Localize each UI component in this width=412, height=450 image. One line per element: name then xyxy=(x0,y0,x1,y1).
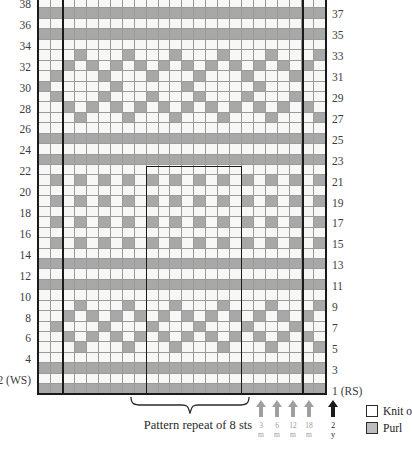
knit-cell xyxy=(50,18,62,28)
purl-cell xyxy=(122,384,134,394)
knit-cell xyxy=(242,102,254,112)
knit-cell xyxy=(170,18,182,28)
stitch-grid-body xyxy=(39,0,326,394)
knit-cell xyxy=(134,321,146,331)
up-arrow-icon xyxy=(286,400,300,417)
purl-cell xyxy=(301,60,313,70)
knit-cell xyxy=(301,81,313,91)
knit-cell xyxy=(194,227,206,237)
knit-cell xyxy=(266,352,278,362)
knit-cell xyxy=(122,165,134,175)
knit-cell xyxy=(146,342,158,352)
knit-cell xyxy=(86,238,98,248)
knit-cell xyxy=(170,81,182,91)
purl-cell xyxy=(242,154,254,164)
knit-cell xyxy=(134,206,146,216)
stitch-row xyxy=(39,269,326,279)
knit-cell xyxy=(242,342,254,352)
purl-cell xyxy=(170,238,182,248)
knit-cell xyxy=(266,227,278,237)
pattern-repeat-brace xyxy=(130,396,250,414)
purl-cell xyxy=(230,8,242,18)
purl-cell xyxy=(206,258,218,268)
knit-cell xyxy=(206,373,218,383)
knit-cell xyxy=(218,71,230,81)
knit-cell xyxy=(230,175,242,185)
stitch-row xyxy=(39,321,326,331)
knit-cell xyxy=(134,112,146,122)
purl-cell xyxy=(170,29,182,39)
knit-cell xyxy=(206,227,218,237)
purl-cell xyxy=(62,258,74,268)
knit-cell xyxy=(170,248,182,258)
stitch-row xyxy=(39,71,326,81)
purl-cell xyxy=(62,384,74,394)
knit-cell xyxy=(313,18,325,28)
purl-cell xyxy=(218,217,230,227)
knit-cell xyxy=(62,300,74,310)
stitch-grid xyxy=(38,0,326,395)
knit-cell xyxy=(254,18,266,28)
knit-cell xyxy=(301,50,313,60)
knit-cell xyxy=(39,50,51,60)
knit-cell xyxy=(182,0,194,8)
purl-cell xyxy=(86,154,98,164)
purl-cell xyxy=(182,258,194,268)
purl-cell xyxy=(74,154,86,164)
purl-cell xyxy=(74,196,86,206)
knit-cell xyxy=(206,248,218,258)
knit-cell xyxy=(301,248,313,258)
knit-cell xyxy=(86,217,98,227)
purl-cell xyxy=(194,363,206,373)
knit-cell xyxy=(206,18,218,28)
row-number-left: 36 xyxy=(20,20,32,30)
knit-cell xyxy=(278,290,290,300)
knit-cell xyxy=(206,165,218,175)
knit-cell xyxy=(110,238,122,248)
knit-cell xyxy=(86,373,98,383)
knit-cell xyxy=(62,123,74,133)
knit-cell xyxy=(194,332,206,342)
knit-cell xyxy=(206,217,218,227)
knit-cell xyxy=(170,206,182,216)
purl-cell xyxy=(170,8,182,18)
knit-cell xyxy=(266,18,278,28)
knit-cell xyxy=(182,342,194,352)
knit-cell xyxy=(278,91,290,101)
knit-cell xyxy=(206,39,218,49)
knit-cell xyxy=(50,206,62,216)
purl-cell xyxy=(194,91,206,101)
knit-cell xyxy=(86,91,98,101)
purl-cell xyxy=(182,102,194,112)
knit-cell xyxy=(86,290,98,300)
knit-cell xyxy=(278,175,290,185)
row-number-left: 20 xyxy=(20,187,32,197)
knit-cell xyxy=(313,248,325,258)
knit-cell xyxy=(194,81,206,91)
knit-cell xyxy=(290,269,302,279)
purl-cell xyxy=(62,29,74,39)
purl-cell xyxy=(170,196,182,206)
stitch-row xyxy=(39,352,326,362)
row-number-right: 1 (RS) xyxy=(332,386,362,396)
purl-cell xyxy=(242,29,254,39)
knit-cell xyxy=(170,144,182,154)
stitch-row xyxy=(39,8,326,18)
row-number-right: 25 xyxy=(332,135,344,145)
purl-cell xyxy=(146,238,158,248)
knit-cell xyxy=(98,227,110,237)
purl-cell xyxy=(301,363,313,373)
purl-cell xyxy=(170,175,182,185)
knit-cell xyxy=(313,71,325,81)
knit-cell xyxy=(98,332,110,342)
purl-cell xyxy=(110,332,122,342)
knit-cell xyxy=(39,175,51,185)
knit-cell xyxy=(290,102,302,112)
knit-cell xyxy=(254,238,266,248)
purl-cell xyxy=(74,175,86,185)
purl-cell xyxy=(194,29,206,39)
purl-cell xyxy=(313,342,325,352)
knit-cell xyxy=(98,123,110,133)
purl-cell xyxy=(194,238,206,248)
knit-cell xyxy=(194,352,206,362)
